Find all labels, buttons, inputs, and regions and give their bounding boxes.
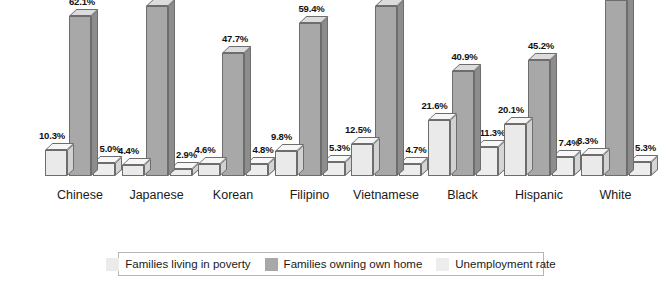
bar-home-ownership-japanese[interactable] bbox=[146, 6, 168, 176]
value-label-home-ownership-korean: 47.7% bbox=[215, 33, 255, 44]
value-label-poverty-vietnamese: 12.5% bbox=[338, 124, 378, 135]
value-label-poverty-filipino: 9.8% bbox=[262, 131, 302, 142]
bar-poverty-black[interactable] bbox=[428, 120, 450, 176]
bar-front-face bbox=[581, 155, 603, 176]
bar-side-face bbox=[168, 0, 175, 176]
legend-label-unemployment: Unemployment rate bbox=[455, 258, 555, 270]
bar-side-face bbox=[450, 114, 457, 176]
plot-area: 10.3%62.1%5.0%Chinese4.4%66.2%2.9%Japane… bbox=[0, 0, 655, 246]
bar-front-face bbox=[504, 124, 526, 176]
bar-side-face bbox=[373, 138, 380, 176]
bar-poverty-filipino[interactable] bbox=[275, 151, 297, 176]
value-label-poverty-chinese: 10.3% bbox=[32, 130, 72, 141]
bar-group-white: 8.3%68.5%5.3% bbox=[581, 0, 651, 176]
bar-poverty-korean[interactable] bbox=[198, 164, 220, 176]
value-label-home-ownership-chinese: 62.1% bbox=[62, 0, 102, 7]
bar-group-black: 21.6%40.9%11.3% bbox=[428, 0, 498, 176]
bar-front-face bbox=[275, 151, 297, 176]
bar-group-vietnamese: 12.5%66.1%4.7% bbox=[351, 0, 421, 176]
legend-item-home-ownership: Families owning own home bbox=[265, 258, 423, 271]
value-label-poverty-korean: 4.6% bbox=[185, 144, 225, 155]
legend-swatch-icon-unemployment bbox=[436, 258, 449, 271]
bar-front-face bbox=[146, 6, 168, 176]
bar-side-face bbox=[474, 65, 481, 176]
bar-poverty-chinese[interactable] bbox=[45, 150, 67, 176]
bar-poverty-hispanic[interactable] bbox=[504, 124, 526, 176]
legend-label-home-ownership: Families owning own home bbox=[284, 258, 423, 270]
value-label-home-ownership-hispanic: 45.2% bbox=[521, 40, 561, 51]
legend-label-poverty: Families living in poverty bbox=[125, 258, 250, 270]
bar-group-filipino: 9.8%59.4%5.3% bbox=[275, 0, 345, 176]
legend-swatch-icon-home-ownership bbox=[265, 258, 278, 271]
bar-front-face bbox=[122, 165, 144, 176]
value-label-poverty-black: 21.6% bbox=[415, 100, 455, 111]
bar-front-face bbox=[198, 164, 220, 176]
bar-group-japanese: 4.4%66.2%2.9% bbox=[122, 0, 192, 176]
bar-group-chinese: 10.3%62.1%5.0% bbox=[45, 0, 115, 176]
value-label-home-ownership-filipino: 59.4% bbox=[292, 3, 332, 14]
bar-group-korean: 4.6%47.7%4.8% bbox=[198, 0, 268, 176]
value-label-poverty-japanese: 4.4% bbox=[109, 145, 149, 156]
value-label-home-ownership-black: 40.9% bbox=[445, 51, 485, 62]
bar-side-face bbox=[321, 17, 328, 176]
bar-side-face bbox=[91, 10, 98, 176]
bar-side-face bbox=[627, 0, 634, 176]
bar-front-face bbox=[351, 144, 373, 176]
bar-poverty-white[interactable] bbox=[581, 155, 603, 176]
legend-item-unemployment: Unemployment rate bbox=[436, 258, 555, 271]
bar-poverty-japanese[interactable] bbox=[122, 165, 144, 176]
category-label-white: White bbox=[567, 188, 663, 202]
bar-side-face bbox=[397, 0, 404, 176]
bar-front-face bbox=[45, 150, 67, 176]
bar-side-face bbox=[244, 47, 251, 176]
legend-swatch-icon-poverty bbox=[106, 258, 119, 271]
bar-front-face bbox=[428, 120, 450, 176]
value-label-poverty-hispanic: 20.1% bbox=[491, 104, 531, 115]
bar-group-hispanic: 20.1%45.2%7.4% bbox=[504, 0, 574, 176]
legend-item-poverty: Families living in poverty bbox=[106, 258, 250, 271]
value-label-poverty-white: 8.3% bbox=[568, 135, 608, 146]
bar-poverty-vietnamese[interactable] bbox=[351, 144, 373, 176]
bar-side-face bbox=[526, 118, 533, 176]
bar-side-face bbox=[550, 53, 557, 176]
chart-legend: Families living in poverty Families owni… bbox=[118, 252, 544, 276]
